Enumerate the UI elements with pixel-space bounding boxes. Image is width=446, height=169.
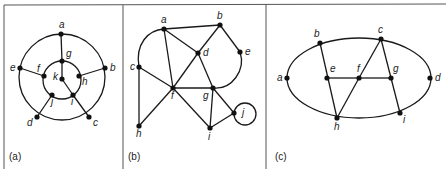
vertex-b xyxy=(217,22,222,27)
vertex-f xyxy=(41,73,46,78)
edge-a-f xyxy=(164,29,173,88)
vertex-label-c: c xyxy=(93,117,98,128)
vertex-label-j: j xyxy=(240,107,245,118)
vertex-label-d: d xyxy=(435,72,441,83)
vertex-label-a: a xyxy=(277,72,283,83)
vertex-label-i: i xyxy=(71,96,74,107)
vertex-label-g: g xyxy=(66,48,72,59)
vertex-a xyxy=(58,31,63,36)
panel-b-graph: abcdefghij (b) xyxy=(128,10,256,162)
vertex-e xyxy=(237,49,242,54)
vertex-g xyxy=(59,58,64,63)
edge-c-f xyxy=(359,39,381,78)
curved-edge-a-c xyxy=(138,29,164,67)
vertex-label-k: k xyxy=(53,71,59,82)
vertex-label-e: e xyxy=(10,62,16,73)
vertex-label-a: a xyxy=(59,19,65,30)
edge-c-f xyxy=(139,67,173,88)
vertex-label-i: i xyxy=(403,114,406,125)
edge-b-h xyxy=(79,68,105,76)
vertex-label-h: h xyxy=(82,76,88,87)
vertex-label-b: b xyxy=(217,10,223,21)
panel-a-nodes: abcdefghijk xyxy=(10,19,116,128)
vertex-label-b: b xyxy=(314,28,320,39)
panel-c-nodes: abcdefghi xyxy=(277,24,441,132)
panel-c-graph: abcdefghi (c) xyxy=(275,24,441,162)
vertex-j xyxy=(231,110,236,115)
edge-f-h xyxy=(337,78,359,118)
edge-f-h xyxy=(139,88,173,126)
vertex-h xyxy=(334,115,339,120)
vertex-h xyxy=(76,73,81,78)
vertex-b xyxy=(102,65,107,70)
panel-b-nodes: abcdefghij xyxy=(130,10,251,142)
edge-i-j xyxy=(210,113,234,128)
vertex-label-c: c xyxy=(378,24,383,35)
panel-c-label: (c) xyxy=(275,151,287,162)
panel-a-graph: abcdefghijk (a) xyxy=(9,19,116,162)
vertex-label-g: g xyxy=(203,90,209,101)
vertex-d xyxy=(427,75,432,80)
vertex-c xyxy=(86,114,91,119)
vertex-label-i: i xyxy=(208,131,211,142)
edge-b-h xyxy=(320,43,337,118)
vertex-label-f: f xyxy=(171,90,175,101)
vertex-e xyxy=(17,65,22,70)
vertex-label-d: d xyxy=(203,47,209,58)
edge-g-i xyxy=(210,88,213,128)
vertex-d xyxy=(195,50,200,55)
vertex-label-e: e xyxy=(330,63,336,74)
edge-d-g xyxy=(198,53,213,88)
vertex-label-f: f xyxy=(37,63,41,74)
edge-b-e xyxy=(220,25,240,52)
panel-a-label: (a) xyxy=(9,151,21,162)
vertex-g xyxy=(388,75,393,80)
vertex-f xyxy=(356,75,361,80)
vertex-label-f: f xyxy=(357,63,361,74)
edge-d-f xyxy=(173,53,198,88)
vertex-label-a: a xyxy=(161,14,167,25)
vertex-label-c: c xyxy=(130,61,135,72)
edge-d-j xyxy=(37,95,52,117)
edge-g-j xyxy=(213,88,234,113)
vertex-label-b: b xyxy=(110,62,116,73)
vertex-label-e: e xyxy=(245,46,251,57)
vertex-g xyxy=(210,85,215,90)
vertex-c xyxy=(136,64,141,69)
vertex-i xyxy=(207,125,212,130)
vertex-label-g: g xyxy=(393,63,399,74)
curved-edge-e-g xyxy=(213,52,241,88)
loop-j xyxy=(234,103,256,125)
edge-b-d xyxy=(198,25,220,53)
vertex-label-h: h xyxy=(136,128,142,139)
vertex-label-d: d xyxy=(27,117,33,128)
vertex-label-h: h xyxy=(334,121,340,132)
vertex-b xyxy=(317,40,322,45)
edge-a-d xyxy=(164,29,198,53)
panel-b-edges xyxy=(139,25,240,128)
vertex-a xyxy=(161,26,166,31)
vertex-e xyxy=(324,75,329,80)
vertex-k xyxy=(59,76,64,81)
edge-c-i xyxy=(73,95,89,117)
vertex-c xyxy=(378,36,383,41)
figure-canvas: abcdefghijk (a) abcdefghij (b) abcdefghi… xyxy=(0,0,446,169)
edge-e-f xyxy=(20,68,44,76)
vertex-d xyxy=(34,114,39,119)
vertex-a xyxy=(284,75,289,80)
panel-b-label: (b) xyxy=(128,151,140,162)
vertex-i xyxy=(397,110,402,115)
edge-a-g xyxy=(61,34,62,61)
edge-a-b xyxy=(164,25,220,29)
edge-k-i xyxy=(62,79,73,95)
